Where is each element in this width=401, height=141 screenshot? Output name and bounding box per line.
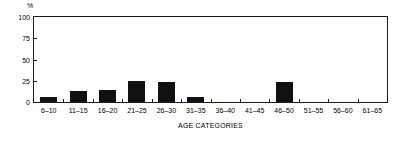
bar-slot [358, 17, 387, 102]
x-axis-tick-marks [34, 97, 387, 102]
x-axis-tick-label: 16–20 [93, 107, 122, 115]
x-axis-tick-label: 6–10 [34, 107, 63, 115]
x-axis-tick-mark [181, 99, 182, 102]
x-axis-tick-label: 51–55 [299, 107, 328, 115]
bar-slot [63, 17, 92, 102]
bar-series [34, 17, 387, 102]
x-axis-tick-mark [93, 99, 94, 102]
x-axis-tick-mark [240, 99, 241, 102]
bar-slot [122, 17, 151, 102]
x-axis-tick-mark [63, 99, 64, 102]
x-axis-title: AGE CATEGORIES [34, 122, 387, 130]
x-axis-tick-label: 46–50 [269, 107, 298, 115]
bar-slot [299, 17, 328, 102]
y-axis-tick-label: 100 [4, 14, 30, 21]
bar-slot [328, 17, 357, 102]
bar-slot [240, 17, 269, 102]
bar-slot [181, 17, 210, 102]
x-axis-tick-label: 31–35 [181, 107, 210, 115]
bar-slot [93, 17, 122, 102]
x-axis-tick-label: 41–45 [240, 107, 269, 115]
x-axis-tick-label: 56–60 [328, 107, 357, 115]
bar-chart: % 0255075100 6–1011–1516–2021–2526–3031–… [0, 0, 401, 141]
x-axis-tick-mark [328, 99, 329, 102]
y-axis-tick-label: 50 [4, 56, 30, 63]
x-axis-tick-label: 36–40 [211, 107, 240, 115]
x-axis-tick-label: 11–15 [63, 107, 92, 115]
x-axis-tick-label: 26–30 [152, 107, 181, 115]
x-axis-tick-labels: 6–1011–1516–2021–2526–3031–3536–4041–454… [34, 107, 387, 115]
y-axis-tick-label: 25 [4, 77, 30, 84]
x-axis-tick-mark [122, 99, 123, 102]
x-axis-tick-mark [152, 99, 153, 102]
x-axis-tick-mark [299, 99, 300, 102]
x-axis-tick-mark [211, 99, 212, 102]
x-axis-tick-label: 21–25 [122, 107, 151, 115]
y-axis-tick-label: 75 [4, 35, 30, 42]
y-axis-tick-label: 0 [4, 99, 30, 106]
bar-slot [152, 17, 181, 102]
bar-slot [211, 17, 240, 102]
x-axis-tick-mark [358, 99, 359, 102]
y-axis-tick-labels: 0255075100 [0, 16, 30, 103]
bar-slot [269, 17, 298, 102]
x-axis-tick-label: 61–65 [358, 107, 387, 115]
y-axis-unit-label: % [27, 2, 33, 10]
bar-slot [34, 17, 63, 102]
x-axis-tick-mark [269, 99, 270, 102]
